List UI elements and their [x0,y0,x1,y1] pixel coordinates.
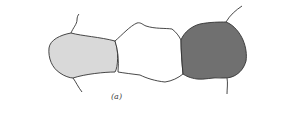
cell-diagram [0,0,291,115]
right-cell [181,22,246,79]
left-top-stem [71,14,79,33]
figure-label: (a) [111,92,122,101]
middle-cell [115,23,183,82]
left-cell [49,33,118,78]
left-bottom-stem [73,78,82,92]
right-top-stem [226,6,242,22]
